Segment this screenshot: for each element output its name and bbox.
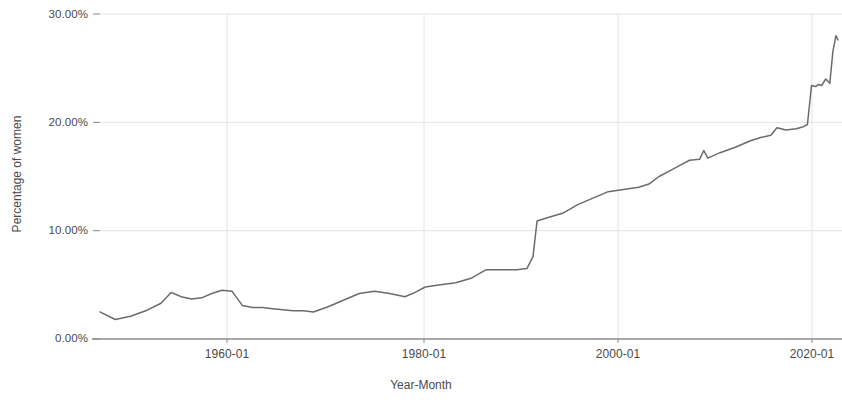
y-axis-title: Percentage of women (10, 79, 24, 269)
data-line-series (100, 36, 838, 320)
y-axis-tick-label: 10.00% (0, 224, 88, 236)
x-axis-title: Year-Month (0, 378, 842, 392)
chart-container: Percentage of women 30.00%20.00%10.00%0.… (0, 0, 842, 400)
gridlines (100, 14, 842, 339)
y-axis-tick-label: 0.00% (0, 332, 88, 344)
line-chart-plot (0, 0, 842, 400)
x-axis-tick-label: 2000-01 (568, 347, 668, 361)
axis-tick-marks (93, 14, 812, 343)
data-series-layer (100, 36, 838, 320)
y-axis-tick-label: 20.00% (0, 116, 88, 128)
y-axis-tick-label: 30.00% (0, 8, 88, 20)
x-axis-tick-label: 2020-01 (762, 347, 842, 361)
x-axis-tick-label: 1960-01 (177, 347, 277, 361)
x-axis-tick-label: 1980-01 (374, 347, 474, 361)
